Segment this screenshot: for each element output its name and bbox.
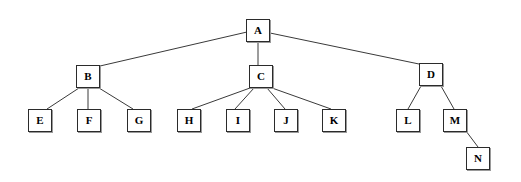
tree-node-a[interactable]: A: [246, 19, 270, 42]
tree-node-h[interactable]: H: [177, 109, 201, 132]
tree-node-n[interactable]: N: [466, 147, 490, 170]
tree-node-m[interactable]: M: [443, 109, 467, 132]
tree-node-label-i: I: [236, 115, 240, 126]
tree-node-k[interactable]: K: [322, 109, 346, 132]
tree-node-label-b: B: [84, 71, 91, 82]
tree-node-label-c: C: [257, 71, 265, 82]
tree-node-f[interactable]: F: [77, 109, 101, 132]
tree-diagram: ABCDEFGHIJKLMN: [0, 0, 521, 182]
node-layer: ABCDEFGHIJKLMN: [0, 0, 521, 182]
tree-node-c[interactable]: C: [249, 65, 273, 88]
tree-node-label-n: N: [474, 153, 482, 164]
tree-node-g[interactable]: G: [127, 109, 151, 132]
tree-node-label-j: J: [283, 115, 289, 126]
tree-node-label-e: E: [36, 115, 43, 126]
tree-node-l[interactable]: L: [396, 109, 420, 132]
tree-node-label-h: H: [185, 115, 194, 126]
tree-node-label-d: D: [427, 69, 435, 80]
tree-node-j[interactable]: J: [274, 109, 298, 132]
tree-node-label-f: F: [86, 115, 93, 126]
tree-node-e[interactable]: E: [28, 109, 52, 132]
tree-node-label-k: K: [330, 115, 339, 126]
tree-node-label-m: M: [450, 115, 460, 126]
tree-node-d[interactable]: D: [419, 63, 443, 86]
tree-node-label-l: L: [404, 115, 411, 126]
tree-node-i[interactable]: I: [226, 109, 250, 132]
tree-node-label-g: G: [135, 115, 144, 126]
tree-node-b[interactable]: B: [76, 65, 100, 88]
tree-node-label-a: A: [254, 25, 262, 36]
